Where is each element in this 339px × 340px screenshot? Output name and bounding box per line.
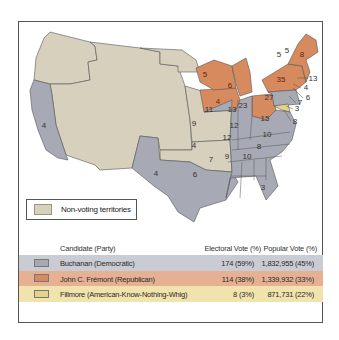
- svg-text:6: 6: [228, 81, 233, 90]
- popular-vote: 1,832,955 (45%): [262, 259, 314, 268]
- svg-text:9: 9: [225, 152, 230, 161]
- svg-text:4: 4: [42, 121, 47, 130]
- svg-text:27: 27: [265, 93, 274, 102]
- header-electoral: Electoral Vote (%): [205, 244, 261, 253]
- svg-text:3: 3: [261, 183, 266, 192]
- table-header: Candidate (Party) Electoral Vote (%) Pop…: [19, 240, 323, 255]
- results-table: Candidate (Party) Electoral Vote (%) Pop…: [19, 240, 323, 302]
- electoral-vote: 8 (3%): [233, 290, 254, 299]
- svg-text:8: 8: [257, 142, 262, 151]
- candidate-name: Buchanan (Democratic): [60, 259, 135, 268]
- candidate-name: John C. Frémont (Republican): [60, 275, 155, 284]
- svg-text:5: 5: [285, 46, 290, 55]
- svg-text:8: 8: [293, 117, 298, 126]
- svg-text:5: 5: [277, 50, 282, 59]
- svg-text:9: 9: [192, 119, 197, 128]
- svg-text:3: 3: [295, 104, 300, 113]
- fillmore-swatch: [34, 290, 49, 298]
- svg-text:4: 4: [192, 141, 197, 150]
- territories-legend-label: Non-voting territories: [61, 205, 131, 214]
- svg-text:4: 4: [304, 83, 309, 92]
- territory-swatch: [34, 204, 52, 215]
- popular-vote: 871,731 (22%): [267, 290, 314, 299]
- svg-text:12: 12: [230, 121, 239, 130]
- fremont-swatch: [34, 274, 49, 282]
- svg-text:5: 5: [203, 70, 208, 79]
- territories-legend: Non-voting territories: [26, 199, 137, 220]
- electoral-vote: 174 (59%): [221, 259, 254, 268]
- table-row-fillmore: Fillmore (American-Know-Nothing-Whig) 8 …: [19, 286, 323, 302]
- svg-text:10: 10: [243, 152, 252, 161]
- svg-text:8: 8: [300, 50, 305, 59]
- svg-text:13: 13: [228, 105, 237, 114]
- svg-text:11: 11: [205, 105, 214, 114]
- table-row-fremont: John C. Frémont (Republican) 114 (38%) 1…: [19, 271, 323, 287]
- svg-text:4: 4: [216, 97, 221, 106]
- candidate-name: Fillmore (American-Know-Nothing-Whig): [60, 290, 187, 299]
- svg-text:6: 6: [193, 170, 198, 179]
- table-row-buchanan: Buchanan (Democratic) 174 (59%) 1,832,95…: [19, 255, 323, 271]
- svg-text:12: 12: [223, 133, 232, 142]
- electoral-vote: 114 (38%): [222, 275, 254, 284]
- svg-text:15: 15: [261, 114, 270, 123]
- header-candidate: Candidate (Party): [60, 244, 115, 253]
- buchanan-swatch: [34, 259, 49, 267]
- svg-text:13: 13: [309, 74, 318, 83]
- popular-vote: 1,339,932 (33%): [262, 275, 314, 284]
- election-map: 4 4 4 5 6 23 35 5 5 8 13 4 6 7 3 8 27 11…: [0, 0, 339, 230]
- svg-text:6: 6: [306, 93, 311, 102]
- svg-text:4: 4: [154, 169, 159, 178]
- svg-text:23: 23: [239, 101, 248, 110]
- svg-text:7: 7: [209, 155, 214, 164]
- svg-text:10: 10: [263, 130, 272, 139]
- header-popular: Popular Vote (%): [264, 244, 318, 253]
- svg-text:35: 35: [277, 75, 286, 84]
- territory-oregon-washington: [34, 32, 97, 84]
